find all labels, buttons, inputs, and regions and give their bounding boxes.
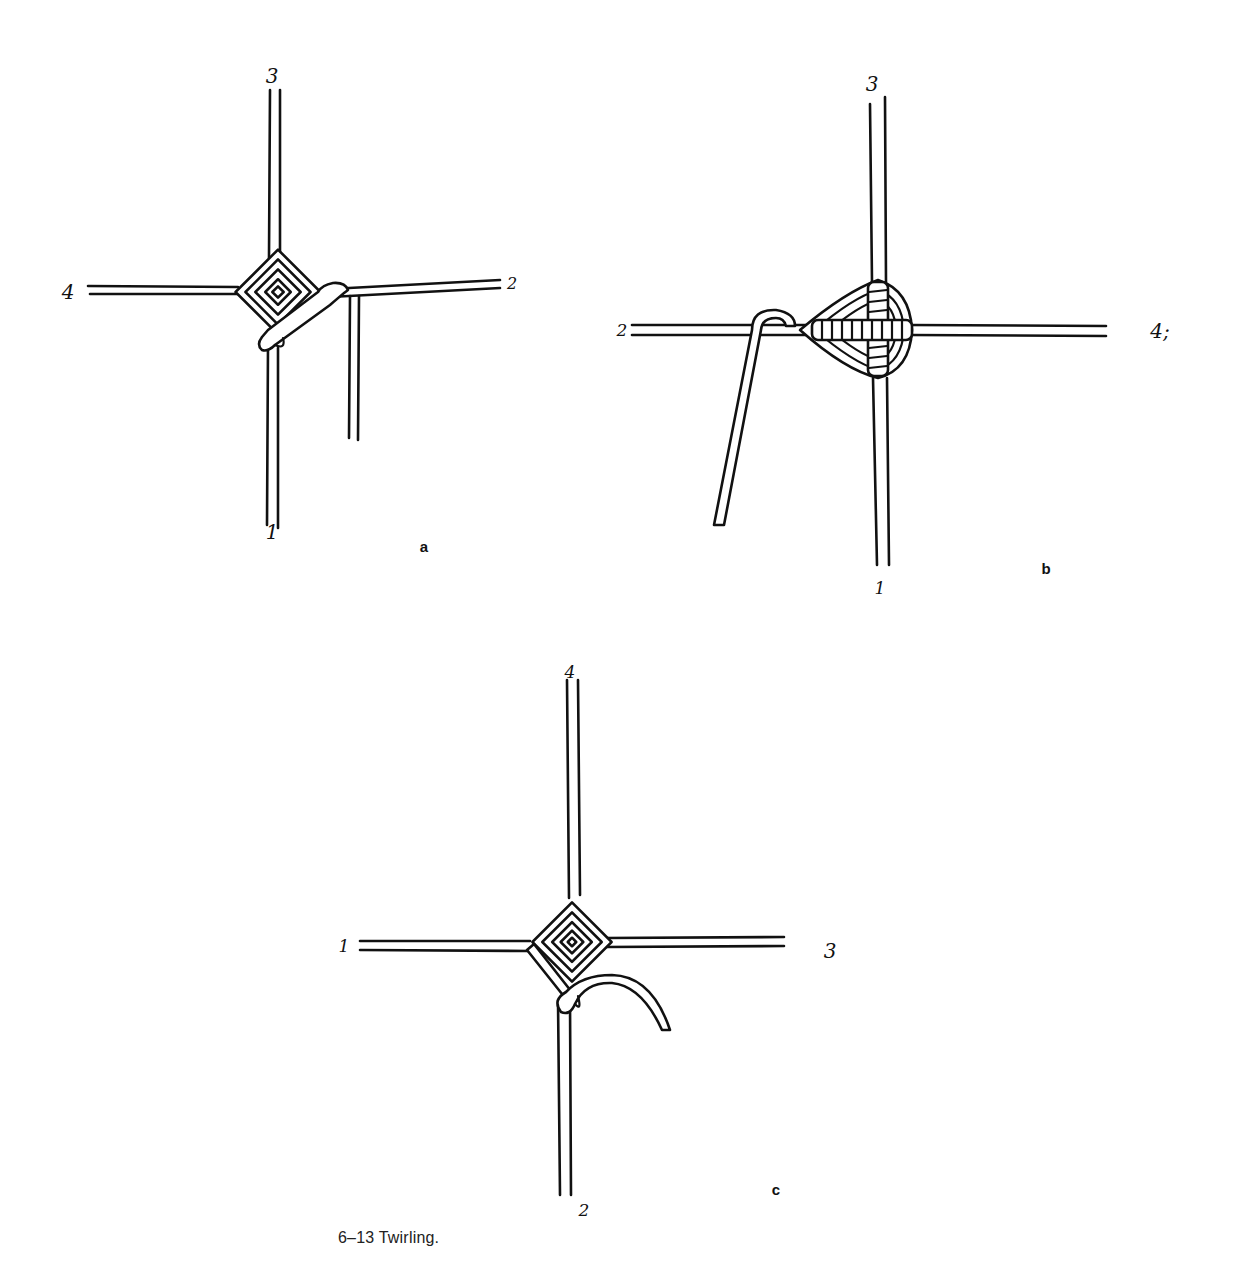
panel-b-label-top: 3 [866,74,879,94]
figure-caption: 6–13 Twirling. [338,1229,439,1247]
panel-b-wrapped-diamond [800,280,912,378]
panel-b-label-bottom: 1 [875,580,886,597]
panel-b-letter: b [1041,561,1050,576]
panel-a-label-right: 2 [507,276,517,292]
panel-a-label-bottom: 1 [266,522,279,542]
panel-b-label-right: 4; [1150,321,1169,341]
panel-a-label-left: 4 [62,282,75,302]
panel-a-label-top: 3 [266,66,279,86]
panel-c-label-right: 3 [824,941,837,961]
panel-c-label-bottom: 2 [579,1202,590,1219]
panel-c-drawing [360,680,784,1195]
panel-c-letter: c [772,1182,780,1197]
twirling-illustration [0,0,1239,1276]
panel-b-label-left: 2 [617,322,628,339]
panel-c-label-left: 1 [339,938,350,955]
panel-b-yarn-strand [714,310,795,525]
panel-a-letter: a [420,539,428,554]
figure-canvas: 3 4 2 1 a 3 2 4; 1 b 4 1 3 2 c 6–13 Twir… [0,0,1239,1276]
panel-c-label-top: 4 [565,664,576,681]
panel-b-drawing [632,97,1106,565]
panel-a-drawing [88,90,500,528]
